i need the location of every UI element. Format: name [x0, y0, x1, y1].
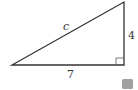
right-triangle-diagram: c 4 7	[0, 0, 138, 90]
horizontal-leg-label: 7	[67, 68, 74, 81]
gray-square-icon	[122, 79, 133, 89]
hypotenuse-label: c	[63, 20, 69, 33]
vertical-leg-label: 4	[128, 29, 135, 42]
right-angle-marker	[116, 58, 124, 65]
triangle	[12, 2, 124, 65]
